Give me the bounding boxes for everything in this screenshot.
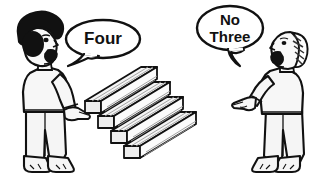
left-person-open-mouth xyxy=(45,50,57,62)
left-bubble-tail-mask xyxy=(85,54,97,55)
right-bubble-tail-mask xyxy=(229,49,243,50)
right-bubble-label-line1: No xyxy=(220,11,240,28)
left-person-eye xyxy=(43,38,48,42)
beam-4-end xyxy=(124,146,140,158)
right-person-open-mouth xyxy=(271,52,283,65)
right-person-eye xyxy=(282,41,287,45)
beam-2-end xyxy=(98,116,114,128)
left-person-foot-back xyxy=(24,156,51,172)
right-bubble-label-line2: Three xyxy=(210,28,251,45)
beam-3-end xyxy=(111,131,127,143)
beam-1-end xyxy=(85,101,101,113)
cartoon-scene: Four No Three xyxy=(0,0,322,184)
left-person-hair-sideburn xyxy=(22,31,44,57)
cartoon-canvas: Four No Three xyxy=(0,0,322,184)
left-bubble-label: Four xyxy=(84,29,122,48)
